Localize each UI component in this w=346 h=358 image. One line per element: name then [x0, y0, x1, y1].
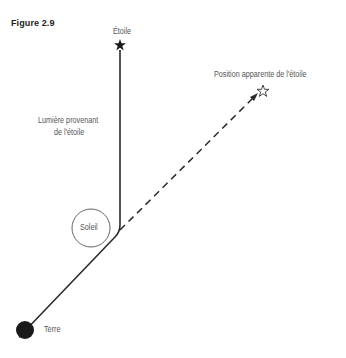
earth-label: Terre — [44, 324, 60, 334]
sun-label: Soleil — [80, 222, 98, 232]
light-label-line2: de l'étoile — [54, 127, 84, 137]
apparent-star-icon — [257, 85, 269, 96]
light-label-line1: Lumière provenant — [38, 115, 98, 125]
apparent-direction-line — [120, 97, 254, 230]
star-icon — [114, 39, 126, 50]
light-deflection-diagram — [0, 0, 346, 358]
earth-circle — [16, 321, 34, 339]
star-label: Étoile — [113, 26, 131, 36]
apparent-position-label: Position apparente de l'étoile — [214, 69, 307, 79]
light-path — [22, 50, 120, 334]
